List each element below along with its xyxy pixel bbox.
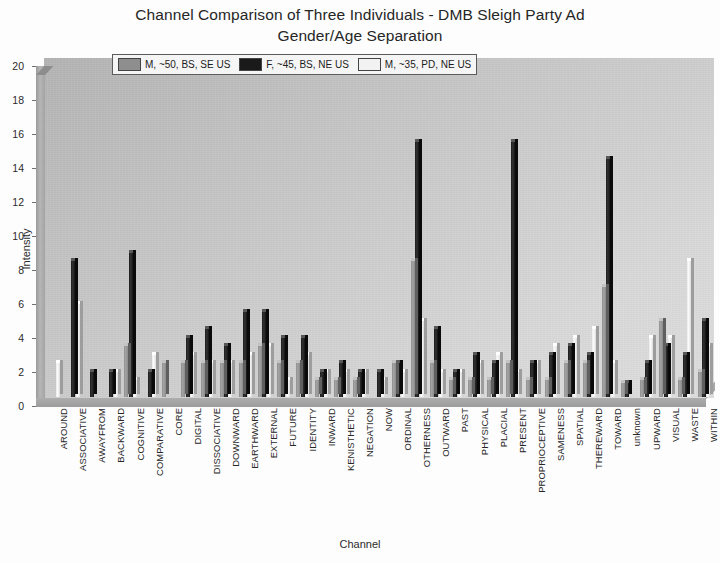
bar[interactable] <box>201 363 205 397</box>
bar-group[interactable] <box>45 58 64 406</box>
bar[interactable] <box>181 363 185 397</box>
bar[interactable] <box>220 363 224 397</box>
bar-group[interactable] <box>580 58 599 406</box>
bar[interactable] <box>90 372 94 398</box>
bar[interactable] <box>640 380 644 397</box>
bar[interactable] <box>545 380 549 397</box>
bar[interactable] <box>109 372 113 398</box>
bar[interactable] <box>296 363 300 397</box>
bar-face <box>411 261 415 397</box>
bar-group[interactable] <box>695 58 714 406</box>
bar-group[interactable] <box>179 58 198 406</box>
bar-group[interactable] <box>102 58 121 406</box>
bar-face <box>487 380 491 397</box>
bar-group[interactable] <box>599 58 618 406</box>
bar-group[interactable] <box>408 58 427 406</box>
legend-entry[interactable]: F, ~45, BS, NE US <box>239 58 349 71</box>
bar-group[interactable] <box>236 58 255 406</box>
bar-group[interactable] <box>427 58 446 406</box>
bar-group[interactable] <box>504 58 523 406</box>
y-axis-tick-mark <box>32 134 36 135</box>
bar[interactable] <box>511 142 515 397</box>
bar-group[interactable] <box>657 58 676 406</box>
bar-group[interactable] <box>446 58 465 406</box>
bar-group[interactable] <box>466 58 485 406</box>
legend-entry[interactable]: M, ~35, PD, NE US <box>358 58 471 71</box>
bar-group[interactable] <box>313 58 332 406</box>
bar[interactable] <box>659 321 663 398</box>
bar-group[interactable] <box>217 58 236 406</box>
bar-group[interactable] <box>370 58 389 406</box>
bar[interactable] <box>56 363 60 397</box>
bar[interactable] <box>430 363 434 397</box>
bar[interactable] <box>698 372 702 398</box>
bar-side <box>419 139 422 394</box>
bar-side <box>156 352 159 395</box>
bar-top <box>702 318 706 321</box>
x-axis-tick-label: DISSOCIATIVE <box>211 408 222 474</box>
bar-group[interactable] <box>198 58 217 406</box>
bar[interactable] <box>526 380 530 397</box>
bar-side <box>606 284 609 395</box>
bar-group[interactable] <box>293 58 312 406</box>
x-axis-tick-label: IDENTITY <box>307 408 318 452</box>
bar-group[interactable] <box>676 58 695 406</box>
bar-side <box>137 377 140 394</box>
bar[interactable] <box>334 380 338 397</box>
bar-group[interactable] <box>485 58 504 406</box>
bar-side <box>385 377 388 394</box>
bar-side <box>549 377 552 394</box>
bar[interactable] <box>468 380 472 397</box>
bar[interactable] <box>678 380 682 397</box>
x-axis-tick-label: PHYSICAL <box>479 408 490 455</box>
bar-group[interactable] <box>351 58 370 406</box>
bar[interactable] <box>621 383 625 397</box>
bar-side <box>553 352 556 395</box>
bar[interactable] <box>583 363 587 397</box>
bar-group[interactable] <box>121 58 140 406</box>
bar-side <box>424 318 427 395</box>
bar[interactable] <box>602 287 606 398</box>
bar-top <box>606 156 610 159</box>
x-axis-tick-label: VISUAL <box>670 408 681 442</box>
bar[interactable] <box>162 363 166 397</box>
bar[interactable] <box>487 380 491 397</box>
bar-side <box>262 343 265 394</box>
bar[interactable] <box>411 261 415 397</box>
bar[interactable] <box>239 363 243 397</box>
bar-group[interactable] <box>255 58 274 406</box>
legend-entry[interactable]: M, ~50, BS, SE US <box>118 58 230 71</box>
bar-group[interactable] <box>160 58 179 406</box>
bar[interactable] <box>258 346 262 397</box>
bar-group[interactable] <box>389 58 408 406</box>
bar[interactable] <box>315 380 319 397</box>
bar-top <box>71 258 75 261</box>
bar-group[interactable] <box>523 58 542 406</box>
bar[interactable] <box>506 363 510 397</box>
bar[interactable] <box>124 346 128 397</box>
bar[interactable] <box>71 261 75 397</box>
bar[interactable] <box>449 380 453 397</box>
bar-group[interactable] <box>141 58 160 406</box>
bar-group[interactable] <box>618 58 637 406</box>
bar-group[interactable] <box>542 58 561 406</box>
bar-top <box>621 380 625 383</box>
bar-group[interactable] <box>332 58 351 406</box>
bar[interactable] <box>392 363 396 397</box>
bar-group[interactable] <box>83 58 102 406</box>
bar-group[interactable] <box>638 58 657 406</box>
y-axis-tick-mark <box>32 406 36 407</box>
x-axis-tick-label: ORDINAL <box>402 408 413 450</box>
bar-face <box>430 363 434 397</box>
bar-group[interactable] <box>64 58 83 406</box>
bar[interactable] <box>353 380 357 397</box>
chart-title: Channel Comparison of Three Individuals … <box>0 4 720 46</box>
bar-top <box>434 326 438 329</box>
bar[interactable] <box>277 363 281 397</box>
bar[interactable] <box>564 363 568 397</box>
bar[interactable] <box>377 372 381 398</box>
bar-group[interactable] <box>274 58 293 406</box>
bar-top <box>415 139 419 142</box>
bar[interactable] <box>148 372 152 398</box>
bar-group[interactable] <box>561 58 580 406</box>
